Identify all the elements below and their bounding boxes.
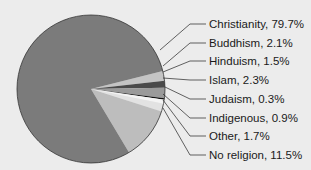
slice-label: No religion, 11.5%	[209, 149, 302, 161]
slice-label: Islam, 2.3%	[209, 74, 269, 86]
leader-lines	[160, 24, 206, 155]
slice-label: Christianity, 79.7%	[209, 18, 304, 30]
slice-label: Other, 1.7%	[209, 130, 270, 142]
slice-label: Indigenous, 0.9%	[209, 112, 298, 124]
leader-line	[163, 94, 206, 118]
slice-label: Judaism, 0.3%	[209, 93, 284, 105]
leader-line	[163, 61, 206, 72]
religion-pie-chart: Christianity, 79.7%Buddhism, 2.1%Hinduis…	[0, 0, 311, 170]
leader-line	[165, 87, 206, 99]
slice-label: Buddhism, 2.1%	[209, 37, 293, 49]
leader-line	[160, 24, 206, 50]
leader-line	[163, 43, 206, 66]
pie-slices	[17, 15, 165, 163]
leader-line	[163, 78, 206, 80]
leader-line	[163, 108, 206, 155]
slice-labels: Christianity, 79.7%Buddhism, 2.1%Hinduis…	[209, 18, 304, 161]
slice-label: Hinduism, 1.5%	[209, 55, 290, 67]
